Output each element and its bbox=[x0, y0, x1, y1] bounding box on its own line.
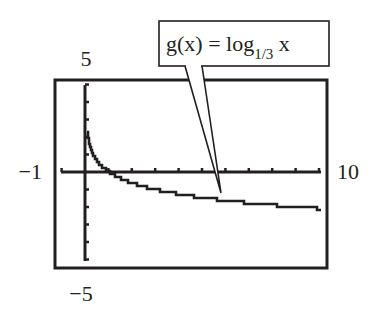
xmax-label: 10 bbox=[337, 159, 359, 184]
graphing-calculator-plot: 5 −1 10 −5 g(x) = log1/3 x bbox=[0, 0, 378, 312]
viewing-window-frame bbox=[55, 80, 327, 268]
ymin-label: −5 bbox=[69, 281, 92, 306]
ymax-label: 5 bbox=[81, 46, 92, 71]
callout-pointer bbox=[185, 66, 221, 193]
xmin-label: −1 bbox=[19, 159, 42, 184]
